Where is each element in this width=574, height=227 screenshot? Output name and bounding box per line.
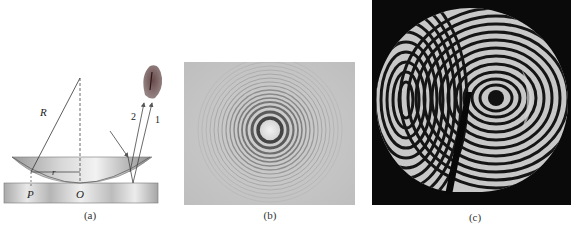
newtons-rings-pattern <box>184 62 355 205</box>
label-ray-2: 2 <box>131 111 136 122</box>
caption-c: (c) <box>455 211 495 223</box>
label-r: r <box>52 167 56 177</box>
panel-b-newtons-rings-photo <box>184 62 355 205</box>
newtons-rings-apparatus-diagram: R r P O 2 1 <box>0 60 180 205</box>
label-O: O <box>76 188 84 200</box>
eye-icon <box>143 65 162 98</box>
panel-c-fringe-photo <box>372 0 571 205</box>
label-ray-1: 1 <box>155 114 160 125</box>
caption-b: (b) <box>250 209 290 221</box>
caption-a: (a) <box>70 209 110 221</box>
label-R: R <box>39 106 47 118</box>
lens-surface-fringes <box>372 0 571 205</box>
panel-a-diagram: R r P O 2 1 <box>0 60 180 205</box>
label-P: P <box>26 188 34 200</box>
